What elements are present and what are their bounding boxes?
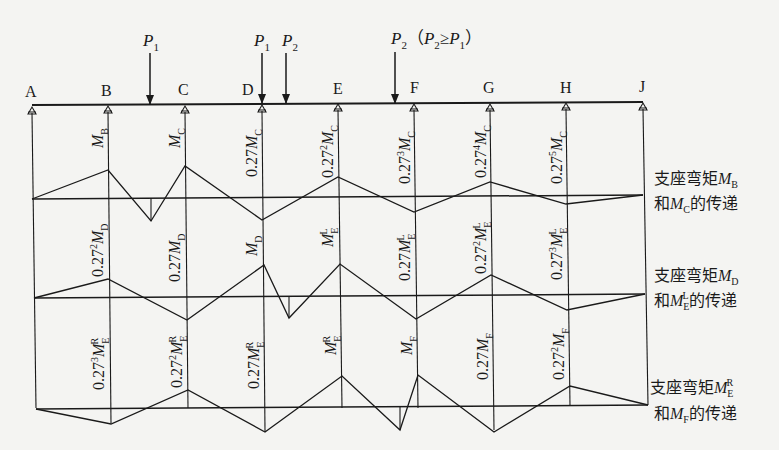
label-0-27-mc: 0.27MC <box>243 129 264 177</box>
band-2-labels: 0.272MD 0.27MD MD MEL 0.27MEL 0.272MEL 0… <box>88 222 569 282</box>
label-0-27-3-mc: 0.273MC <box>395 131 417 184</box>
support-icon-g <box>486 104 494 111</box>
support-icon-e <box>334 104 342 111</box>
band-2-baseline <box>34 294 645 298</box>
band-2-title-line-2: 和MEL的传递 <box>654 290 737 312</box>
support-icon-j <box>639 103 647 110</box>
moment-distribution-diagram: A B C D E F G H J P1 P1 P2 <box>0 0 779 450</box>
band-1-title-line-2: 和MC的传递 <box>654 194 738 215</box>
band-3-labels: 0.273MER 0.272MER 0.27MER MER MF 0.27MF … <box>89 328 571 390</box>
support-icon-c <box>181 106 189 113</box>
support-icon-h <box>562 103 570 110</box>
support-label-a: A <box>25 83 37 100</box>
support-label-h: H <box>560 79 572 96</box>
support-label-c: C <box>178 81 189 98</box>
label-0-27-2-mel: 0.272MEL <box>471 222 493 274</box>
arrowhead-icon <box>258 94 266 104</box>
band-3-title-line-2: 和MF的传递 <box>654 404 737 425</box>
label-0-27-3-mel: 0.273MEL <box>547 228 569 280</box>
label-0-27-md: 0.27MD <box>166 233 187 282</box>
support-icon-d <box>258 105 266 112</box>
label-mb: MB <box>89 128 110 149</box>
support-label-e: E <box>333 80 343 97</box>
band-1-baseline <box>32 195 643 199</box>
label-0-27-mel: 0.27MEL <box>395 234 417 281</box>
support-label-j: J <box>639 78 645 95</box>
label-0-27-2-mc: 0.272MC <box>318 125 340 178</box>
support-label-b: B <box>101 82 112 99</box>
label-0-27-2-mf: 0.272MF <box>549 328 571 380</box>
band-3-title-line-1: 支座弯矩MER <box>650 377 733 399</box>
load-label-p2-de: P2 <box>281 31 298 53</box>
label-0-27-mer: 0.27MER <box>244 342 266 389</box>
label-0-27-mf: 0.27MF <box>474 333 495 380</box>
label-mer: MER <box>321 336 343 356</box>
label-mel: MEL <box>318 228 340 248</box>
band-1-labels: MB MC 0.27MC 0.272MC 0.273MC 0.274MC 0.2… <box>89 125 569 184</box>
label-0-27-4-mc: 0.274MC <box>471 125 493 178</box>
band-1-title-line-1: 支座弯矩MB <box>654 169 738 190</box>
load-label-p2-ef: P2（P2≥P1） <box>390 29 482 51</box>
label-0-27-5-mc: 0.275MC <box>547 131 569 184</box>
support-icon-a <box>28 107 36 114</box>
support-icon-b <box>104 106 112 113</box>
band-titles: 支座弯矩MB 和MC的传递 支座弯矩MD 和MEL的传递 支座弯矩MER 和MF… <box>650 169 739 425</box>
support-label-g: G <box>483 79 495 96</box>
arrowhead-icon <box>282 94 290 104</box>
support-label-f: F <box>410 79 419 96</box>
support-icon-f <box>410 104 418 111</box>
support-label-d: D <box>242 81 254 98</box>
load-label-p1-d: P1 <box>253 31 270 53</box>
load-label-p1-bc: P1 <box>142 31 159 53</box>
label-mf: MF <box>398 336 419 356</box>
label-0-27-2-md: 0.272MD <box>88 223 110 277</box>
point-loads: P1 P1 P2 P2（P2≥P1） <box>142 29 482 105</box>
label-0-27-3-mer: 0.273MER <box>89 338 111 390</box>
label-md: MD <box>243 235 264 257</box>
label-mc: MC <box>166 128 187 149</box>
support-labels: A B C D E F G H J <box>25 78 645 100</box>
label-0-27-2-mer: 0.272MER <box>167 336 189 388</box>
band-2-title-line-1: 支座弯矩MD <box>654 266 739 287</box>
